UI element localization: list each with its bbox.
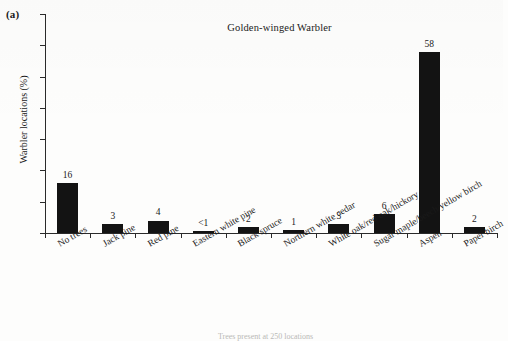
x-tick — [135, 233, 136, 238]
x-tick — [407, 233, 408, 238]
y-tick — [40, 170, 45, 171]
x-tick — [90, 233, 91, 238]
y-tick — [40, 45, 45, 46]
y-tick — [40, 77, 45, 78]
bar-value-label: 2 — [454, 214, 494, 224]
x-tick — [181, 233, 182, 238]
plot-area: 010203040506070 1634<12136582 No treesJa… — [45, 14, 497, 233]
bar-value-label: 16 — [48, 170, 88, 180]
y-tick — [40, 14, 45, 15]
x-tick — [497, 233, 498, 238]
x-tick — [452, 233, 453, 238]
panel-letter: (a) — [6, 8, 19, 20]
bar-value-label: 58 — [409, 39, 449, 49]
y-axis-line — [45, 14, 46, 234]
y-tick — [40, 108, 45, 109]
bottom-caption: Trees present at 250 locations — [14, 332, 508, 341]
x-tick — [226, 233, 227, 238]
y-tick — [40, 202, 45, 203]
bar — [57, 183, 78, 233]
bar-value-label: 4 — [138, 207, 178, 217]
x-tick — [316, 233, 317, 238]
y-tick — [40, 139, 45, 140]
x-tick — [45, 233, 46, 238]
y-axis-label: Warbler locations (%) — [18, 45, 29, 195]
x-tick — [271, 233, 272, 238]
bar-value-label: 3 — [93, 211, 133, 221]
x-tick — [361, 233, 362, 238]
